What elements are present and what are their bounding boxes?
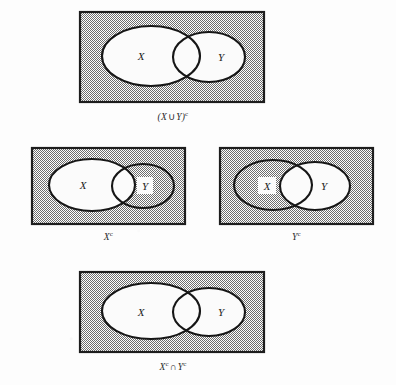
label-x: X: [79, 179, 88, 191]
caption-superscript: c: [185, 110, 188, 118]
label-x: X: [137, 50, 146, 62]
panel-x-complement: X Y Xc: [30, 146, 187, 226]
label-x: X: [137, 306, 146, 318]
panel-y-complement: X Y Yc: [218, 146, 375, 226]
panel-union-complement: X Y (X∪Y)c: [78, 10, 268, 106]
caption-x-complement: Xc: [30, 230, 187, 242]
caption-right-superscript: c: [183, 360, 186, 368]
panel-intersection-of-complements: X Y Xc∩Yc: [78, 270, 268, 356]
venn-diagram-x-complement: X Y: [30, 146, 187, 226]
venn-diagram-y-complement: X Y: [218, 146, 375, 226]
caption-y-complement: Yc: [218, 230, 375, 242]
caption-union-operator: ∪: [167, 112, 176, 122]
caption-intersection-operator: ∩: [169, 362, 178, 372]
caption-union-complement: (X∪Y)c: [78, 110, 268, 122]
venn-figure: X Y (X∪Y)c: [0, 0, 396, 385]
label-x: X: [263, 180, 272, 192]
venn-diagram-intersection-of-complements: X Y: [78, 270, 268, 356]
caption-superscript: c: [298, 230, 301, 238]
venn-diagram-union-complement: X Y: [78, 10, 268, 106]
caption-intersection-of-complements: Xc∩Yc: [78, 360, 268, 372]
caption-superscript: c: [110, 230, 113, 238]
